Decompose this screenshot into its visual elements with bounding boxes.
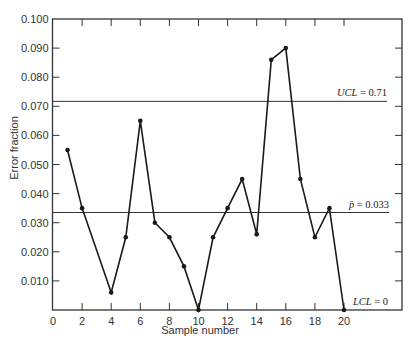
y-tick-label: 0.050: [21, 159, 49, 171]
y-tick-label: 0.040: [21, 188, 49, 200]
data-point: [313, 235, 318, 240]
data-point: [225, 206, 230, 211]
data-point: [138, 119, 143, 124]
y-tick-label: 0.020: [21, 246, 49, 258]
data-point: [240, 177, 245, 182]
x-tick-label: 4: [108, 315, 114, 327]
y-tick-label: 0.030: [21, 217, 49, 229]
x-tick-label: 2: [79, 315, 85, 327]
mean-label: p̄ = 0.033: [348, 199, 389, 210]
data-point: [284, 46, 289, 51]
data-point: [153, 220, 158, 225]
y-tick-label: 0.080: [21, 71, 49, 83]
x-axis-ticks: 02468101214161820: [50, 19, 350, 327]
data-point: [327, 206, 332, 211]
x-tick-label: 16: [280, 315, 292, 327]
y-tick-label: 0.090: [21, 42, 49, 54]
y-axis-title: Error fraction: [8, 116, 20, 180]
data-point: [123, 235, 128, 240]
lcl-label: LCL = 0: [352, 296, 388, 307]
data-point: [196, 308, 201, 313]
x-tick-label: 14: [251, 315, 263, 327]
x-tick-label: 18: [309, 315, 321, 327]
data-point: [167, 235, 172, 240]
ucl-label: UCL = 0.71: [337, 87, 387, 98]
data-point: [182, 264, 187, 269]
data-point: [298, 177, 303, 182]
data-point: [211, 235, 216, 240]
data-point: [342, 308, 347, 313]
data-point: [254, 232, 259, 237]
data-point: [80, 206, 85, 211]
x-axis-title: Sample number: [161, 324, 239, 336]
control-chart: 0.0100.0200.0300.0400.0500.0600.0700.080…: [0, 0, 416, 343]
data-point: [109, 290, 114, 295]
x-tick-label: 20: [338, 315, 350, 327]
data-series: [65, 46, 346, 313]
y-tick-label: 0.070: [21, 100, 49, 112]
plot-border: [53, 19, 403, 310]
data-point: [269, 57, 274, 62]
x-tick-label: 6: [137, 315, 143, 327]
x-tick-label: 0: [50, 315, 56, 327]
y-tick-label: 0.100: [21, 13, 49, 25]
data-point: [65, 148, 70, 153]
plot-frame: [53, 19, 403, 310]
y-tick-label: 0.060: [21, 129, 49, 141]
y-tick-label: 0.010: [21, 275, 49, 287]
